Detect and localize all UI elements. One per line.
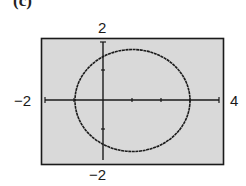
ymin-label: −2 (89, 167, 106, 182)
xmax-label: 4 (230, 93, 238, 108)
graph-screen (0, 0, 246, 186)
ymax-label: 2 (98, 20, 106, 35)
xmin-label: −2 (14, 93, 31, 108)
